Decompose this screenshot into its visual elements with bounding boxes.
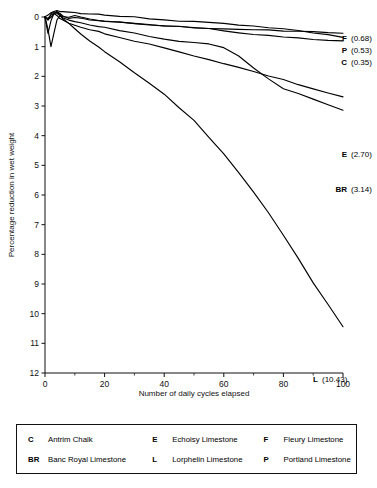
data-curves <box>45 11 343 327</box>
y-axis-tick-labels: 0123456789101112 <box>30 12 40 378</box>
series-value-e: (2.70) <box>351 150 372 159</box>
series-code-e: E <box>342 150 348 159</box>
legend-label: Antrim Chalk <box>48 436 93 444</box>
legend-code: E <box>152 436 166 444</box>
series-value-br: (3.14) <box>351 185 372 194</box>
y-tick-label: 10 <box>30 309 40 319</box>
axes <box>45 17 343 373</box>
legend-item-e: E Echoisy Limestone <box>152 429 263 450</box>
y-axis-ticks <box>42 17 46 373</box>
y-tick-label: 7 <box>34 220 39 230</box>
series-value-p: (0.53) <box>351 46 372 55</box>
y-tick-label: 9 <box>34 279 39 289</box>
series-code-l: L <box>313 375 318 384</box>
y-tick-label: 2 <box>34 71 39 81</box>
legend-code: C <box>28 436 42 444</box>
x-axis-tick-labels: 020406080100 <box>43 379 351 389</box>
series-value-f: (0.68) <box>351 34 372 43</box>
y-tick-label: 0 <box>34 12 39 22</box>
series-code-p: P <box>342 46 348 55</box>
legend-code: F <box>264 436 278 444</box>
legend-label: Portland Limestone <box>284 456 351 464</box>
series-code-br: BR <box>335 185 347 194</box>
legend-item-br: BR Banc Royal Limestone <box>17 449 152 470</box>
y-tick-label: 4 <box>34 131 39 141</box>
legend-code: L <box>152 456 166 464</box>
legend-label: Fleury Limestone <box>284 436 344 444</box>
x-tick-label: 40 <box>159 379 169 389</box>
curve-e <box>45 13 343 96</box>
curve-f <box>45 11 343 38</box>
legend-item-l: L Lorphelin Limestone <box>152 449 263 470</box>
y-tick-label: 6 <box>34 190 39 200</box>
legend-row: C Antrim Chalk E Echoisy Limestone F Fle… <box>17 429 356 450</box>
line-chart: 0123456789101112 020406080100 F(0.68)P(0… <box>0 0 377 400</box>
legend-code: BR <box>28 456 42 464</box>
y-tick-label: 8 <box>34 249 39 259</box>
series-code-f: F <box>342 34 347 43</box>
y-tick-label: 5 <box>34 160 39 170</box>
curve-c <box>45 12 343 41</box>
legend-item-f: F Fleury Limestone <box>264 429 356 450</box>
series-value-c: (0.35) <box>351 58 372 67</box>
curve-l <box>45 16 343 327</box>
legend-box: C Antrim Chalk E Echoisy Limestone F Fle… <box>16 424 357 474</box>
y-tick-label: 12 <box>30 368 40 378</box>
legend-label: Lorphelin Limestone <box>172 456 242 464</box>
x-tick-label: 20 <box>100 379 110 389</box>
legend-label: Echoisy Limestone <box>172 436 237 444</box>
y-tick-label: 11 <box>30 338 39 348</box>
x-tick-label: 0 <box>43 379 48 389</box>
y-axis-title: Percentage reduction in wet weight <box>7 132 16 257</box>
x-axis-title: Number of daily cycles elapsed <box>139 389 250 398</box>
x-tick-label: 80 <box>279 379 289 389</box>
series-end-labels: F(0.68)P(0.53)C(0.35)E(2.70)BR(3.14)L(10… <box>313 34 372 384</box>
legend-label: Banc Royal Limestone <box>48 456 126 464</box>
legend-code: P <box>264 456 278 464</box>
legend-item-p: P Portland Limestone <box>264 449 356 470</box>
y-tick-label: 1 <box>34 42 39 52</box>
figure: 0123456789101112 020406080100 F(0.68)P(0… <box>0 0 377 488</box>
series-code-c: C <box>341 58 347 67</box>
x-axis-ticks <box>45 373 343 377</box>
y-tick-label: 3 <box>34 101 39 111</box>
legend-row: BR Banc Royal Limestone L Lorphelin Lime… <box>17 449 356 470</box>
x-tick-label: 60 <box>219 379 229 389</box>
legend-item-c: C Antrim Chalk <box>17 429 152 450</box>
series-value-l: (10.43) <box>322 375 348 384</box>
